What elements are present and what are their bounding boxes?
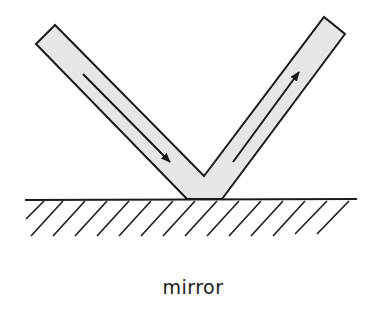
mirror-surface-line	[25, 199, 357, 200]
mirror-hatching	[26, 201, 349, 236]
reflected-arrow-icon	[233, 72, 299, 162]
light-beam-shape	[36, 17, 345, 199]
incident-arrow-icon	[83, 74, 170, 162]
mirror-label: mirror	[0, 276, 386, 298]
reflection-diagram	[0, 0, 386, 312]
